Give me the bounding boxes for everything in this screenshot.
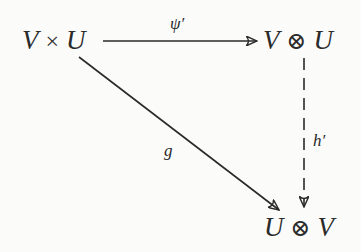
times-operator: × bbox=[46, 28, 60, 54]
symbol-v: V bbox=[318, 212, 335, 242]
symbol-v: V bbox=[22, 25, 39, 55]
symbol-v: V bbox=[263, 25, 280, 55]
tensor-operator: ⊗ bbox=[291, 215, 311, 241]
commutative-diagram: V×U V⊗U U⊗V ψ′ g h′ bbox=[0, 0, 361, 252]
arrow-g bbox=[79, 57, 279, 210]
symbol-u: U bbox=[314, 25, 334, 55]
symbol-u: U bbox=[264, 212, 284, 242]
node-u-tensor-v: U⊗V bbox=[264, 214, 334, 241]
node-v-tensor-u: V⊗U bbox=[263, 27, 333, 54]
tensor-operator: ⊗ bbox=[287, 28, 307, 54]
label-psi-prime: ψ′ bbox=[170, 15, 184, 32]
label-h-prime: h′ bbox=[313, 132, 325, 149]
label-g: g bbox=[164, 142, 173, 159]
symbol-u: U bbox=[66, 25, 86, 55]
node-v-times-u: V×U bbox=[22, 27, 86, 54]
